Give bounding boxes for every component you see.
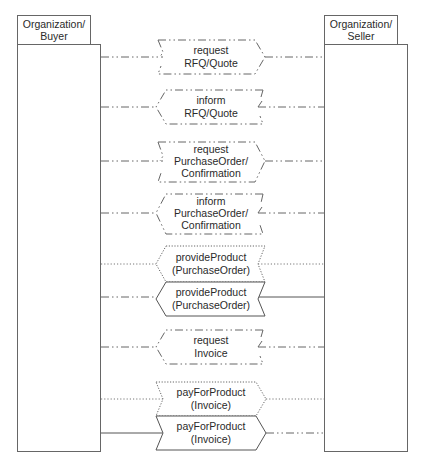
- message-label-1: inform: [196, 94, 225, 106]
- message-request-purchaseorder-confirmation[interactable]: request PurchaseOrder/ Confirmation: [101, 142, 324, 182]
- message-label-2: PurchaseOrder/: [174, 207, 248, 219]
- message-provideproduct-commitment[interactable]: provideProduct (PurchaseOrder): [101, 246, 324, 282]
- message-payforproduct-action[interactable]: payForProduct (Invoice): [101, 416, 324, 450]
- message-label-1: request: [193, 334, 228, 346]
- lifeline-buyer-body: [18, 45, 101, 452]
- protocol-diagram: Organization/ Buyer Organization/ Seller…: [0, 0, 424, 466]
- message-inform-rfq-quote[interactable]: inform RFQ/Quote: [101, 90, 324, 124]
- message-label-1: payForProduct: [177, 420, 246, 432]
- lifeline-seller[interactable]: Organization/ Seller: [325, 16, 408, 452]
- lifeline-seller-body: [325, 45, 408, 452]
- message-label-2: RFQ/Quote: [184, 57, 238, 69]
- message-label-2: (Invoice): [191, 433, 231, 445]
- message-label-2: Invoice: [194, 347, 227, 359]
- message-payforproduct-commitment[interactable]: payForProduct (Invoice): [101, 382, 324, 416]
- message-label-2: RFQ/Quote: [184, 107, 238, 119]
- lifeline-seller-label-1: Organization/: [330, 18, 393, 30]
- message-label-3: Confirmation: [181, 219, 241, 231]
- message-label-1: payForProduct: [177, 386, 246, 398]
- lifeline-buyer-label-1: Organization/: [23, 18, 86, 30]
- message-provideproduct-action[interactable]: provideProduct (PurchaseOrder): [101, 282, 324, 316]
- message-label-2: (PurchaseOrder): [172, 264, 250, 276]
- message-label-1: provideProduct: [176, 251, 247, 263]
- message-request-invoice[interactable]: request Invoice: [101, 330, 324, 364]
- message-inform-purchaseorder-confirmation[interactable]: inform PurchaseOrder/ Confirmation: [101, 194, 324, 234]
- message-label-2: (Invoice): [191, 399, 231, 411]
- message-label-2: (PurchaseOrder): [172, 299, 250, 311]
- message-label-1: inform: [196, 195, 225, 207]
- message-request-rfq-quote[interactable]: request RFQ/Quote: [101, 40, 324, 74]
- lifeline-seller-label-2: Seller: [348, 30, 375, 42]
- lifeline-buyer[interactable]: Organization/ Buyer: [18, 16, 101, 452]
- message-label-1: request: [193, 44, 228, 56]
- message-label-2: PurchaseOrder/: [174, 155, 248, 167]
- message-label-1: provideProduct: [176, 286, 247, 298]
- message-label-1: request: [193, 143, 228, 155]
- lifeline-buyer-label-2: Buyer: [40, 30, 68, 42]
- message-label-3: Confirmation: [181, 167, 241, 179]
